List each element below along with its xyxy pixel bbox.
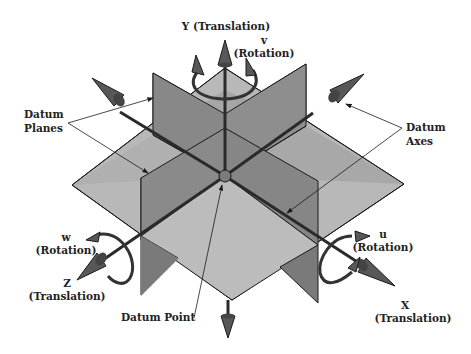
u-rotation-label: (Rotation) xyxy=(353,241,414,253)
w-symbol-label: w xyxy=(60,231,71,243)
datum-axes-label-line1: Datum xyxy=(406,121,446,133)
z-translation-label: (Translation) xyxy=(28,290,105,302)
y-translation-label: Y (Translation) xyxy=(181,20,270,32)
x-symbol-label: X xyxy=(401,299,410,311)
datum-planes-label-line2: Planes xyxy=(24,122,63,134)
x-translation-label: (Translation) xyxy=(374,312,451,324)
v-rotation-label: (Rotation) xyxy=(234,47,295,59)
datum-planes-label-line1: Datum xyxy=(24,108,64,120)
v-symbol-label: v xyxy=(260,34,268,46)
u-rotation-arrow-icon xyxy=(320,236,352,283)
datum-point-marker xyxy=(219,170,231,182)
datum-axes-label-line2: Axes xyxy=(405,135,433,147)
datum-point-label: Datum Point xyxy=(121,311,195,323)
u-symbol-label: u xyxy=(379,228,387,240)
y-down-arrow-icon xyxy=(221,316,235,338)
z-symbol-label: Z xyxy=(63,277,71,289)
w-rotation-label: (Rotation) xyxy=(36,244,97,256)
datum-reference-frame-diagram: Y (Translation) v (Rotation) Datum Plane… xyxy=(0,0,471,354)
y-translation-arrow-icon xyxy=(218,40,232,65)
